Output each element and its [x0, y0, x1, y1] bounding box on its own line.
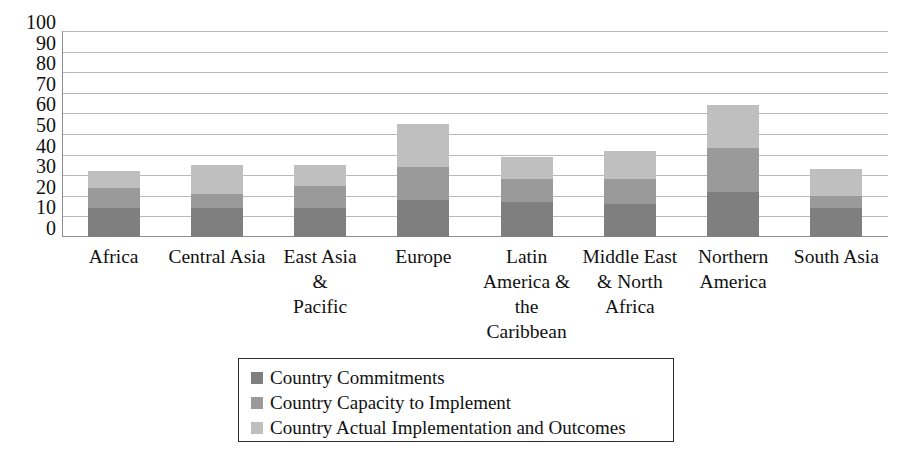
x-axis-label: East Asia&Pacific	[269, 244, 372, 344]
x-axis-label: Europe	[372, 244, 475, 344]
legend-item[interactable]: Country Actual Implementation and Outcom…	[251, 416, 673, 440]
bar-segment[interactable]	[810, 169, 862, 196]
bar-slot	[269, 31, 372, 237]
bar-segment[interactable]	[88, 208, 140, 237]
bar-segment[interactable]	[707, 105, 759, 148]
y-axis-tick-label: 30	[0, 156, 56, 176]
x-axis-label-line: America	[684, 269, 783, 294]
x-axis-label-line: Pacific	[271, 294, 370, 319]
bar-segment[interactable]	[501, 179, 553, 202]
y-axis-tick-label: 50	[0, 115, 56, 135]
x-axis-label-line: Europe	[374, 244, 473, 269]
legend: Country CommitmentsCountry Capacity to I…	[238, 358, 674, 442]
bar-segment[interactable]	[810, 196, 862, 208]
bar-segment[interactable]	[88, 188, 140, 209]
legend-swatch-icon	[251, 422, 263, 434]
bars-layer	[62, 31, 888, 237]
bar-slot	[62, 31, 165, 237]
x-axis-label-line: Africa	[580, 294, 679, 319]
legend-swatch-icon	[251, 397, 263, 409]
bar-slot	[785, 31, 888, 237]
y-axis: 0102030405060708090100	[0, 22, 56, 246]
bar-segment[interactable]	[191, 194, 243, 208]
x-axis-label: NorthernAmerica	[682, 244, 785, 344]
bar-slot	[372, 31, 475, 237]
x-axis-label: Africa	[62, 244, 165, 344]
x-axis-label-line: Caribbean	[477, 319, 576, 344]
x-axis-label-line: East Asia	[271, 244, 370, 269]
bar-segment[interactable]	[397, 124, 449, 167]
x-axis-label: Middle East& NorthAfrica	[578, 244, 681, 344]
x-axis-label-line: Latin	[477, 244, 576, 269]
y-axis-tick-label: 90	[0, 33, 56, 53]
bar-segment[interactable]	[810, 208, 862, 237]
bar-segment[interactable]	[501, 157, 553, 180]
bar-slot	[578, 31, 681, 237]
y-axis-tick-label: 20	[0, 177, 56, 197]
legend-label: Country Capacity to Implement	[270, 392, 511, 414]
y-axis-tick-label: 60	[0, 94, 56, 114]
x-axis-label-line: Africa	[64, 244, 163, 269]
bar-segment[interactable]	[397, 167, 449, 200]
bar-segment[interactable]	[294, 186, 346, 209]
bar-stack[interactable]	[501, 157, 553, 237]
bar-slot	[682, 31, 785, 237]
y-axis-tick-label: 100	[0, 12, 56, 32]
legend-label: Country Actual Implementation and Outcom…	[270, 417, 626, 439]
legend-label: Country Commitments	[270, 367, 445, 389]
bar-stack[interactable]	[604, 151, 656, 238]
bar-stack[interactable]	[707, 105, 759, 237]
legend-item[interactable]: Country Capacity to Implement	[251, 391, 673, 415]
y-axis-tick-label: 10	[0, 197, 56, 217]
bar-segment[interactable]	[191, 208, 243, 237]
bar-segment[interactable]	[397, 200, 449, 237]
y-axis-tick-label: 40	[0, 136, 56, 156]
bar-segment[interactable]	[604, 151, 656, 180]
bar-segment[interactable]	[707, 148, 759, 191]
bar-slot	[475, 31, 578, 237]
bar-segment[interactable]	[294, 208, 346, 237]
x-axis-label-line: South Asia	[787, 244, 886, 269]
bar-segment[interactable]	[294, 165, 346, 186]
bar-segment[interactable]	[88, 171, 140, 187]
stacked-bar-chart: 0102030405060708090100 AfricaCentral Asi…	[0, 0, 903, 476]
plot-area	[62, 31, 888, 237]
x-axis-label: South Asia	[785, 244, 888, 344]
bar-segment[interactable]	[604, 179, 656, 204]
y-axis-tick-label: 80	[0, 53, 56, 73]
bar-stack[interactable]	[191, 165, 243, 237]
bar-segment[interactable]	[707, 192, 759, 237]
x-axis-label-line: America &	[477, 269, 576, 294]
bar-stack[interactable]	[88, 171, 140, 237]
x-axis-label-line: the	[477, 294, 576, 319]
x-axis-label: Central Asia	[165, 244, 268, 344]
x-axis-category-labels: AfricaCentral AsiaEast Asia&PacificEurop…	[62, 244, 888, 344]
legend-swatch-icon	[251, 372, 263, 384]
legend-item[interactable]: Country Commitments	[251, 366, 673, 390]
y-axis-tick-label: 0	[0, 218, 56, 238]
bar-segment[interactable]	[191, 165, 243, 194]
plot-wrapper: 0102030405060708090100 AfricaCentral Asi…	[0, 0, 903, 246]
x-axis-label-line: Middle East	[580, 244, 679, 269]
x-axis-label-line: &	[271, 269, 370, 294]
x-axis-label-line: Central Asia	[167, 244, 266, 269]
x-axis-label-line: & North	[580, 269, 679, 294]
x-axis-label: LatinAmerica &theCaribbean	[475, 244, 578, 344]
bar-stack[interactable]	[397, 124, 449, 237]
bar-stack[interactable]	[294, 165, 346, 237]
y-axis-tick-label: 70	[0, 74, 56, 94]
bar-segment[interactable]	[501, 202, 553, 237]
x-axis-label-line: Northern	[684, 244, 783, 269]
bar-stack[interactable]	[810, 169, 862, 237]
bar-slot	[165, 31, 268, 237]
bar-segment[interactable]	[604, 204, 656, 237]
